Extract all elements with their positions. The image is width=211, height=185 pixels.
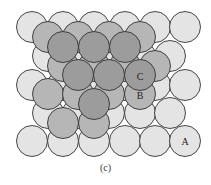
sphere-layer-a xyxy=(170,70,201,101)
sphere-layer-c xyxy=(79,32,110,63)
layer-label-b: B xyxy=(137,90,144,101)
sphere-layer-c xyxy=(48,32,79,63)
sphere-layer-a xyxy=(140,126,171,157)
layer-label-c: C xyxy=(137,71,144,82)
sphere-layer-a xyxy=(170,12,201,43)
sphere-layer-b xyxy=(48,108,79,139)
sphere-layer-a xyxy=(110,126,141,157)
figure-caption: (c) xyxy=(0,162,211,173)
sphere-layer-a xyxy=(17,126,48,157)
close-packed-spheres-diagram: ABC xyxy=(0,0,211,160)
sphere-layer-c xyxy=(79,89,110,120)
sphere-layer-b xyxy=(33,79,64,110)
sphere-layer-c xyxy=(110,32,141,63)
layer-label-a: A xyxy=(181,136,189,147)
sphere-layer-a xyxy=(155,98,186,129)
sphere-layer-c xyxy=(94,60,125,91)
sphere-layer-c xyxy=(63,60,94,91)
